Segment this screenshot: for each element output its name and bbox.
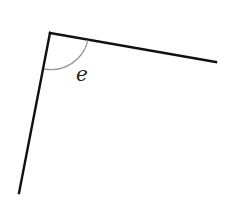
ray-right [50,33,216,62]
angle-diagram: e [0,0,229,206]
ray-down [19,33,50,193]
angle-label: e [76,62,88,86]
